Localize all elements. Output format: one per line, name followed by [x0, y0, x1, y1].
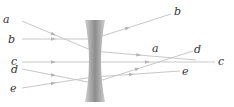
lens-ray-diagram: aabbccddee [0, 0, 234, 107]
arrow-icon [125, 25, 131, 30]
ray-label-in-d: d [11, 64, 18, 75]
ray-label-out-c: c [218, 56, 224, 67]
arrow-icon [50, 32, 56, 37]
ray-label-out-e: e [182, 66, 189, 77]
arrow-icon [135, 66, 141, 71]
arrow-icon [145, 60, 150, 64]
ray-label-out-a: a [152, 43, 159, 54]
arrow-icon [51, 37, 56, 41]
arrow-icon [129, 72, 134, 76]
arrow-icon [136, 53, 141, 57]
concave-lens [85, 20, 105, 102]
ray-label-in-a: a [3, 14, 10, 25]
ray-label-in-b: b [8, 34, 15, 45]
ray-label-in-e: e [10, 83, 17, 94]
ray-a [22, 21, 196, 60]
ray-label-out-b: b [174, 6, 181, 17]
ray-label-out-d: d [194, 44, 201, 55]
ray-d [22, 51, 193, 83]
arrow-icon [51, 60, 56, 64]
ray-c [22, 60, 215, 64]
